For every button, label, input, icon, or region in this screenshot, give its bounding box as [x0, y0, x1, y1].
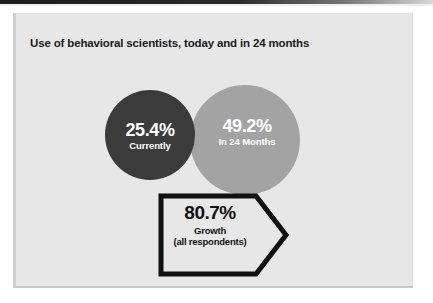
slide-title: Use of behavioral scientists, today and …	[30, 37, 309, 49]
growth-arrow-label: 80.7% Growth (all respondents)	[164, 203, 256, 247]
venn-label-in-24-months: 49.2% In 24 Months	[195, 117, 299, 147]
panel-bottom-edge	[13, 286, 413, 288]
growth-value: 80.7%	[164, 203, 256, 224]
venn-caption-currently: Currently	[105, 141, 195, 151]
slide-panel: Use of behavioral scientists, today and …	[13, 13, 413, 288]
growth-caption: Growth	[164, 226, 256, 236]
venn-caption-in-24-months: In 24 Months	[195, 137, 299, 147]
panel-left-edge	[13, 13, 16, 288]
venn-value-currently: 25.4%	[105, 121, 195, 140]
scan-edge-strip-secondary	[0, 4, 433, 6]
venn-label-currently: 25.4% Currently	[105, 121, 195, 151]
growth-subcaption: (all respondents)	[164, 237, 256, 247]
venn-value-in-24-months: 49.2%	[195, 117, 299, 136]
